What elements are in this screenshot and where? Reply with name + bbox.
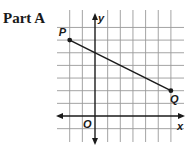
x-axis-label: x bbox=[176, 120, 184, 132]
point-p-dot bbox=[67, 38, 72, 43]
x-axis-right-arrow-icon bbox=[178, 113, 185, 119]
x-axis-left-arrow-icon bbox=[56, 113, 63, 119]
origin-label: O bbox=[83, 118, 92, 130]
grid-lines bbox=[57, 10, 184, 142]
y-axis-down-arrow-icon bbox=[92, 138, 98, 145]
point-p-label: P bbox=[59, 26, 67, 38]
point-q-label: Q bbox=[170, 93, 179, 105]
graph-labels: PQyxO bbox=[59, 12, 184, 132]
y-axis-label: y bbox=[97, 12, 105, 24]
coordinate-graph: PQyxO bbox=[0, 0, 195, 156]
